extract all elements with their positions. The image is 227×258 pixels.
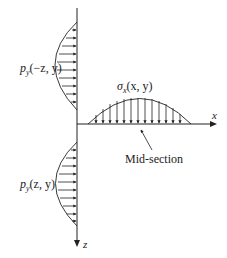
z-axis: [74, 8, 80, 247]
stress-label: σx(x, y): [117, 79, 152, 95]
stress-distribution: [88, 98, 191, 124]
z-axis-arrow-icon: [74, 240, 80, 247]
bottom-load-distribution: [56, 142, 78, 226]
mid-section-pointer: [141, 130, 152, 150]
beam-stress-diagram: py(−z, y) py(z, y) σx(x, y) x z Mid-sect…: [0, 0, 227, 258]
x-axis-label: x: [211, 109, 217, 121]
x-axis-arrow-icon: [210, 121, 217, 127]
bottom-load-label: py(z, y): [19, 177, 55, 193]
top-load-label: py(−z, y): [19, 61, 62, 77]
z-axis-label: z: [82, 238, 88, 250]
mid-section-label: Mid-section: [125, 152, 183, 166]
x-axis: [77, 121, 217, 127]
